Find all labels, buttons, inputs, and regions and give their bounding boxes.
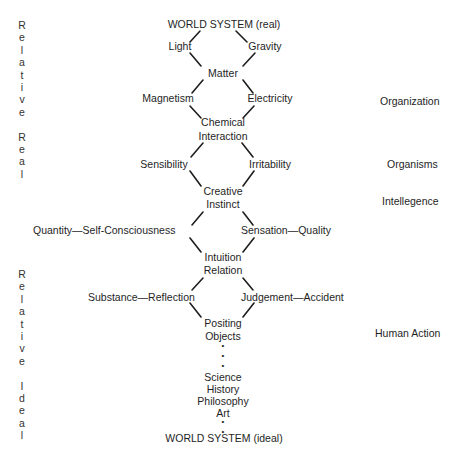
connector-line <box>190 303 201 317</box>
dot: • <box>222 351 225 361</box>
letter: a <box>16 305 28 317</box>
connector-line <box>190 106 201 118</box>
node-chemical: Chemical <box>201 115 245 129</box>
letter: R <box>16 268 28 280</box>
letter: a <box>16 417 28 429</box>
letter: e <box>16 280 28 292</box>
letter: e <box>16 31 28 43</box>
node-relation: Relation <box>204 263 243 277</box>
connector-line <box>243 238 254 252</box>
node-magnetism: Magnetism <box>142 91 193 105</box>
node-intuition: Intuition <box>205 250 242 264</box>
gap <box>16 367 28 379</box>
node-electricity: Electricity <box>248 91 293 105</box>
connector-line <box>243 303 254 317</box>
letter: t <box>16 69 28 81</box>
connector-line <box>236 31 247 42</box>
letter: e <box>16 143 28 155</box>
connector-line <box>191 143 203 157</box>
node-positing: Positing <box>204 316 241 330</box>
connector-line <box>190 53 201 66</box>
letter: l <box>16 44 28 56</box>
letter: l <box>16 168 28 180</box>
label-human-action: Human Action <box>375 326 440 340</box>
node-irritability: Irritability <box>249 157 291 171</box>
letter: i <box>16 81 28 93</box>
connector-line <box>192 278 203 290</box>
connector-line <box>243 278 253 290</box>
node-instinct: Instinct <box>206 197 239 211</box>
ellipsis-dots-upper: • • • <box>222 341 225 371</box>
letter: d <box>16 392 28 404</box>
connector-line <box>190 171 201 186</box>
node-interaction: Interaction <box>198 129 247 143</box>
letter: I <box>16 380 28 392</box>
label-organisms: Organisms <box>387 157 438 171</box>
letter: l <box>16 429 28 441</box>
node-sensibility: Sensibility <box>140 157 187 171</box>
world-system-real: WORLD SYSTEM (real) <box>168 17 281 31</box>
node-sensation-quality: Sensation—Quality <box>241 223 331 237</box>
letter: a <box>16 56 28 68</box>
letter: e <box>16 404 28 416</box>
letter: R <box>16 131 28 143</box>
dot: • <box>222 417 225 427</box>
node-substance-reflection: Substance—Reflection <box>88 290 195 304</box>
node-light: Light <box>169 39 192 53</box>
letter: l <box>16 293 28 305</box>
gap <box>16 118 28 130</box>
letter: v <box>16 342 28 354</box>
letter: t <box>16 318 28 330</box>
letter: v <box>16 93 28 105</box>
letter: e <box>16 355 28 367</box>
connector-line <box>243 171 254 186</box>
label-intellegence: Intellegence <box>382 194 439 208</box>
relative-real-label: R e l a t i v e R e a l <box>16 19 28 180</box>
connector-line <box>192 212 203 225</box>
relative-ideal-label: R e l a t i v e I d e a l <box>16 268 28 441</box>
node-judgement-accident: Judgement—Accident <box>241 290 344 304</box>
dot: • <box>222 341 225 351</box>
node-creative: Creative <box>203 184 242 198</box>
letter: i <box>16 330 28 342</box>
connector-line <box>242 143 253 157</box>
node-gravity: Gravity <box>248 39 281 53</box>
node-quantity-self-consciousness: Quantity—Self-Consciousness <box>33 223 175 237</box>
connector-line <box>190 238 201 252</box>
letter: R <box>16 19 28 31</box>
world-system-ideal: WORLD SYSTEM (ideal) <box>165 431 282 445</box>
node-matter: Matter <box>208 66 238 80</box>
connector-line <box>243 53 255 66</box>
letter: e <box>16 106 28 118</box>
letter: a <box>16 155 28 167</box>
label-organization: Organization <box>380 94 440 108</box>
